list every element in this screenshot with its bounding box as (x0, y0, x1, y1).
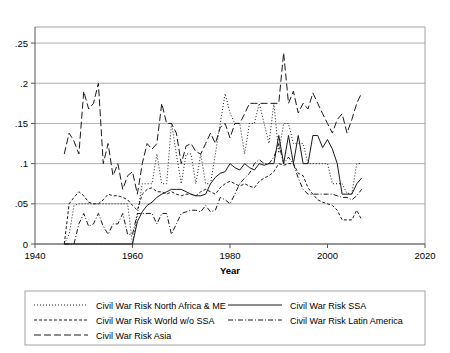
legend-item-label: Civil War Risk Latin America (290, 316, 403, 326)
y-tick-label: 0 (23, 239, 28, 250)
x-tick-label: 1980 (219, 250, 240, 261)
legend-item-label: Civil War Risk North Africa & ME (96, 301, 226, 311)
y-tick-label: .05 (15, 198, 28, 209)
x-tick-label: 2020 (414, 250, 435, 261)
x-axis-title: Year (220, 265, 240, 276)
y-tick-label: .2 (20, 78, 28, 89)
civil-war-risk-chart: 0.05.1.15.2.25 19401960198020002020 Year… (0, 0, 450, 353)
y-tick-label: .1 (20, 158, 28, 169)
y-tick-label: .15 (15, 118, 28, 129)
x-tick-label: 1940 (24, 250, 45, 261)
y-tick-label: .25 (15, 38, 28, 49)
legend-item-label: Civil War Risk SSA (290, 301, 366, 311)
legend-item-label: Civil War Risk Asia (96, 331, 171, 341)
x-tick-label: 1960 (122, 250, 143, 261)
legend-item-label: Civil War Risk World w/o SSA (96, 316, 215, 326)
x-tick-label: 2000 (317, 250, 338, 261)
